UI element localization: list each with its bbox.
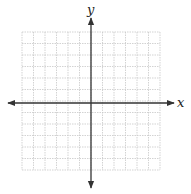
- y-axis-label: y: [86, 2, 95, 17]
- x-axis-label: x: [177, 95, 185, 110]
- coordinate-plane: x y: [0, 0, 191, 194]
